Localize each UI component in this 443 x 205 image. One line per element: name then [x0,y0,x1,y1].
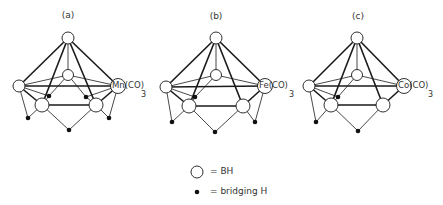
structure-a [13,32,126,132]
legend-bridging-h-text: = bridging H [210,186,267,196]
metal-subscript-b: 3 [289,90,294,99]
panel-label-b: (b) [210,11,223,21]
metal-label-a: Mn(CO) [112,80,144,90]
cluster-diagram: (a) (b) (c) Mn(CO) 3 Fe(CO) 3 Co(CO) 3 =… [0,0,443,205]
panel-label-c: (c) [352,11,364,21]
metal-subscript-a: 3 [141,90,146,99]
panel-label-a: (a) [62,10,75,20]
legend-bh-text: = BH [210,166,233,176]
structure-c [303,32,412,133]
structure-b [160,32,273,134]
legend-bh-icon [191,166,203,178]
metal-label-b: Fe(CO) [259,80,288,90]
legend-bridging-h-icon [195,190,200,195]
metal-label-c: Co(CO) [398,80,428,90]
metal-subscript-c: 3 [428,90,433,99]
